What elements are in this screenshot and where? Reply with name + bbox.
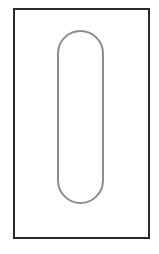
capsule-slot-shape [58, 31, 103, 203]
diagram-canvas [0, 0, 159, 254]
